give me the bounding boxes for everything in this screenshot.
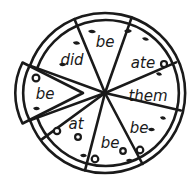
pizza-word-wheel-figure: be ate them be be at did be [0,0,195,182]
herb-flake [80,154,87,158]
herb-flake [33,107,40,111]
herb-flake [148,128,155,132]
slice-word-top-right: ate [131,54,155,72]
herb-flake [142,37,149,40]
olive [137,147,144,154]
slice-word-bottom: be [101,134,120,152]
olive [120,148,126,154]
slice-word-bottom-left: at [68,115,84,133]
slice-word-detached: be [36,85,55,103]
olive [92,156,99,163]
pizza-illustration: be ate them be be at did be [0,0,195,182]
slice-divider-2 [105,18,132,93]
slice-word-bottom-right: be [130,119,149,137]
olive [161,61,167,67]
olive [54,128,60,134]
herb-flake [73,41,80,44]
slice-word-top-left: did [60,51,84,69]
detached-slice-crust-line [23,66,29,120]
slice-word-top: be [96,33,115,51]
herb-flake [156,72,162,75]
slice-word-right: them [128,87,167,105]
herb-flake [160,116,166,119]
olive [33,75,40,82]
olive [75,134,81,140]
